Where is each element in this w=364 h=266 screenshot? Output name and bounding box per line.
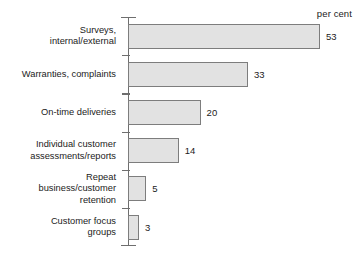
bar (128, 100, 201, 125)
bar-group: 5 (128, 176, 157, 201)
bar-value-label: 14 (185, 145, 196, 156)
bar-group: 53 (128, 24, 337, 49)
bar-group: 33 (128, 62, 265, 87)
bar-row: Customer focus groups 3 (0, 208, 364, 246)
bar (128, 24, 320, 49)
category-label: On-time deliveries (0, 107, 116, 118)
bar-value-label: 53 (326, 31, 337, 42)
bar (128, 215, 139, 240)
bar-value-label: 20 (207, 107, 218, 118)
bar-value-label: 5 (152, 183, 157, 194)
bar-value-label: 3 (145, 222, 150, 233)
category-label: Surveys, internal/external (0, 25, 116, 48)
bar-row: On-time deliveries 20 (0, 93, 364, 131)
bar-row: Surveys, internal/external 53 (0, 17, 364, 55)
category-label: Customer focus groups (0, 216, 116, 239)
bar-rows: Surveys, internal/external 53 Warranties… (0, 17, 364, 246)
bar (128, 138, 179, 163)
category-label: Warranties, complaints (0, 69, 116, 80)
bar-group: 3 (128, 215, 150, 240)
bar-chart: per cent Surveys, internal/external 53 W… (0, 0, 364, 266)
bar-value-label: 33 (254, 69, 265, 80)
category-label: Individual customer assessments/reports (0, 139, 116, 162)
bar (128, 176, 146, 201)
bar-row: Warranties, complaints 33 (0, 55, 364, 93)
category-label: Repeat business/customer retention (0, 172, 116, 206)
bar-row: Individual customer assessments/reports … (0, 132, 364, 170)
bar (128, 62, 248, 87)
bar-group: 20 (128, 100, 217, 125)
bar-group: 14 (128, 138, 195, 163)
bar-row: Repeat business/customer retention 5 (0, 170, 364, 208)
